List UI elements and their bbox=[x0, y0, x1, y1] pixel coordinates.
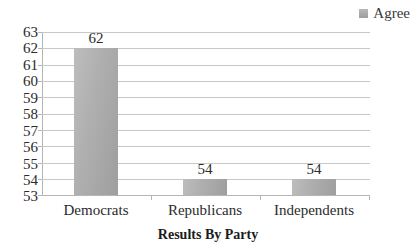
bar-value-democrats: 62 bbox=[89, 31, 104, 46]
x-category-tick bbox=[369, 195, 370, 200]
y-tick-mark bbox=[38, 130, 42, 131]
bar-value-republicans: 54 bbox=[198, 162, 213, 177]
legend-label-agree: Agree bbox=[373, 6, 410, 21]
bar-chart: Agree 63 62 61 60 59 58 57 56 55 54 53 bbox=[0, 0, 416, 246]
legend-swatch-agree-icon bbox=[359, 9, 368, 18]
x-tick-label-republicans: Republicans bbox=[168, 203, 242, 218]
bar-democrats[interactable] bbox=[74, 48, 118, 195]
x-axis-line bbox=[42, 195, 370, 196]
x-category-tick bbox=[151, 195, 152, 200]
y-tick-mark bbox=[38, 32, 42, 33]
y-tick-label: 56 bbox=[4, 140, 38, 155]
x-category-tick bbox=[260, 195, 261, 200]
y-tick-label: 62 bbox=[4, 41, 38, 56]
y-tick-mark bbox=[38, 65, 42, 66]
plot-area: 62 54 54 bbox=[42, 32, 370, 196]
y-tick-label: 58 bbox=[4, 107, 38, 122]
y-tick-label: 55 bbox=[4, 157, 38, 172]
bar-value-independents: 54 bbox=[307, 162, 322, 177]
y-tick-mark bbox=[38, 146, 42, 147]
bar-independents[interactable] bbox=[292, 179, 336, 195]
x-axis-title: Results By Party bbox=[0, 228, 416, 242]
y-tick-label: 61 bbox=[4, 58, 38, 73]
y-tick-mark bbox=[38, 97, 42, 98]
y-tick-mark bbox=[38, 195, 42, 196]
chart-legend: Agree bbox=[359, 4, 410, 22]
y-tick-label: 59 bbox=[4, 91, 38, 106]
x-tick-label-democrats: Democrats bbox=[64, 203, 129, 218]
y-tick-mark bbox=[38, 163, 42, 164]
y-tick-mark bbox=[38, 179, 42, 180]
y-tick-label: 53 bbox=[4, 189, 38, 204]
y-tick-mark bbox=[38, 114, 42, 115]
y-tick-label: 57 bbox=[4, 124, 38, 139]
x-tick-label-independents: Independents bbox=[274, 203, 354, 218]
y-tick-mark bbox=[38, 48, 42, 49]
y-tick-label: 54 bbox=[4, 173, 38, 188]
y-tick-label: 63 bbox=[4, 25, 38, 40]
bar-republicans[interactable] bbox=[183, 179, 227, 195]
y-tick-mark bbox=[38, 81, 42, 82]
y-tick-label: 60 bbox=[4, 74, 38, 89]
